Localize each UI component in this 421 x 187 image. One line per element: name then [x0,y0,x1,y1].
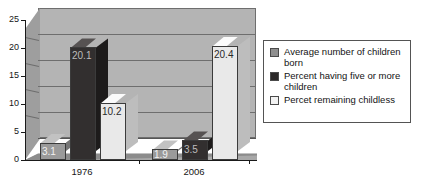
bar-1976-percent-five-or-more-children: 20.1 [70,47,96,160]
y-axis-label-15: 15 [0,71,19,80]
legend-swatch-icon [270,72,279,81]
y-axis-label-0: 0 [0,155,19,164]
bar-1976-percent-remaining-childless: 10.2 [100,103,126,160]
bar-1976-average-children-born: 3.1 [40,143,66,160]
bar-value-label: 10.2 [102,107,121,117]
y-tick-25 [21,20,25,21]
y-tick-10 [21,104,25,105]
legend-item-label: Percent having five or more children [284,70,408,92]
bar-value-label: 1.9 [154,150,168,160]
bar-side-face [238,37,250,151]
legend-swatch-icon [270,48,279,57]
x-axis-label-1976: 1976 [52,166,112,177]
y-axis-label-20: 20 [0,43,19,52]
y-axis-line [25,20,26,161]
bar-2006-average-children-born: 1.9 [152,149,178,160]
legend-item-average-children-born[interactable]: Average number of children born [270,46,408,68]
y-tick-5 [21,132,25,133]
legend-item-percent-remaining-childless[interactable]: Percet remaining childless [270,94,408,105]
x-axis-label-2006: 2006 [164,166,224,177]
chart-legend: Average number of children born Percent … [263,40,411,123]
bar-value-label: 3.1 [42,147,56,157]
gridline-20 [38,34,256,35]
bar-value-label: 20.1 [72,51,91,61]
y-axis-label-10: 10 [0,99,19,108]
x-axis-line [25,160,257,161]
bar-front-face [212,46,238,160]
bar-value-label: 3.5 [184,145,198,155]
bar-2006-percent-five-or-more-children: 3.5 [182,140,208,160]
y-tick-0 [21,160,25,161]
legend-item-percent-five-or-more-children[interactable]: Percent having five or more children [270,70,408,92]
y-axis-label-25: 25 [0,15,19,24]
bar-2006-percent-remaining-childless: 20.4 [212,46,238,160]
x-tick-divider [139,160,140,164]
plot-area: 3.1 20.1 10.2 1.9 3.5 [0,0,262,187]
legend-item-label: Average number of children born [284,46,408,68]
chart-figure: 3.1 20.1 10.2 1.9 3.5 [0,0,421,187]
bar-value-label: 20.4 [214,50,233,60]
x-tick-end [249,160,250,164]
bar-side-face [126,94,138,151]
y-axis-label-5: 5 [0,127,19,136]
legend-swatch-icon [270,96,279,105]
legend-item-label: Percet remaining childless [284,94,408,105]
bar-front-face [70,47,96,160]
y-tick-15 [21,76,25,77]
y-tick-20 [21,48,25,49]
